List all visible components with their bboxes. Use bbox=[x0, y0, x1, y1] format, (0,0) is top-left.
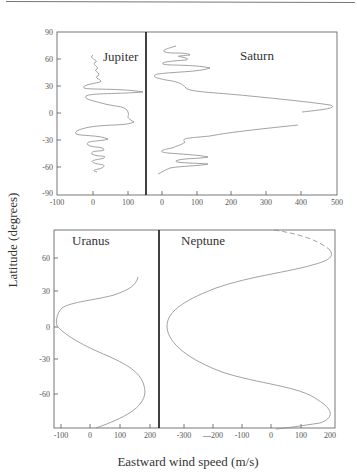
x-tick-label: 300 bbox=[260, 198, 272, 207]
x-tick-label: 100 bbox=[114, 431, 126, 440]
y-tick-label: -90 bbox=[42, 189, 53, 198]
y-tick-label: -60 bbox=[39, 390, 50, 399]
top-panel-frame bbox=[57, 32, 337, 195]
x-tick-label: 100 bbox=[122, 198, 134, 207]
x-tick-label: 500 bbox=[331, 198, 343, 207]
x-tick-label: 0 bbox=[88, 431, 92, 440]
y-tick-label: 30 bbox=[42, 287, 50, 296]
x-tick-label: -100 bbox=[54, 431, 69, 440]
neptune-x-axis: -300 —200 -100 0 100 200 bbox=[177, 424, 336, 440]
bottom-panel-frame bbox=[54, 230, 335, 428]
y-tick-label: 90 bbox=[45, 28, 53, 37]
x-tick-label: 200 bbox=[324, 431, 336, 440]
page-top-rule bbox=[6, 2, 355, 3]
y-axis-title: Latitude (degrees) bbox=[5, 193, 20, 288]
saturn-wind-curve bbox=[154, 46, 332, 174]
x-tick-label: 200 bbox=[144, 431, 156, 440]
x-tick-label: 100 bbox=[295, 431, 307, 440]
neptune-label: Neptune bbox=[181, 233, 225, 248]
neptune-wind-curve-dashed bbox=[274, 230, 330, 250]
x-tick-label: -100 bbox=[235, 431, 250, 440]
y-tick-label: 30 bbox=[45, 82, 53, 91]
bottom-y-axis: 60 30 0 -30 -60 bbox=[39, 254, 58, 399]
bottom-panel: 60 30 0 -30 -60 -100 0 100 200 -300 —200 bbox=[39, 230, 336, 440]
jupiter-label: Jupiter bbox=[103, 49, 139, 64]
uranus-x-axis: -100 0 100 200 bbox=[54, 424, 156, 440]
x-tick-label: —200 bbox=[202, 431, 223, 440]
y-tick-label: 60 bbox=[42, 254, 50, 263]
x-tick-label: -300 bbox=[177, 431, 192, 440]
x-tick-label: 0 bbox=[160, 198, 164, 207]
uranus-label: Uranus bbox=[72, 233, 110, 248]
top-panel: 90 60 30 0 -30 -60 -90 -100 0 100 0 100 … bbox=[42, 28, 343, 207]
y-tick-label: 60 bbox=[45, 55, 53, 64]
y-tick-label: -30 bbox=[39, 355, 50, 364]
neptune-wind-curve bbox=[167, 250, 332, 429]
saturn-label: Saturn bbox=[240, 48, 274, 63]
jupiter-wind-curve bbox=[76, 55, 143, 172]
x-tick-label: 100 bbox=[191, 198, 203, 207]
y-tick-label: -30 bbox=[42, 136, 53, 145]
x-tick-label: 200 bbox=[225, 198, 237, 207]
x-tick-label: 0 bbox=[269, 431, 273, 440]
planetary-wind-profile-figure: 90 60 30 0 -30 -60 -90 -100 0 100 0 100 … bbox=[0, 0, 357, 472]
y-tick-label: 0 bbox=[46, 323, 50, 332]
y-tick-label: -60 bbox=[42, 163, 53, 172]
x-tick-label: 0 bbox=[91, 198, 95, 207]
x-axis-title: Eastward wind speed (m/s) bbox=[117, 454, 258, 469]
top-y-axis: 90 60 30 0 -30 -60 -90 bbox=[42, 28, 61, 198]
saturn-x-axis: 0 100 200 300 400 500 bbox=[160, 191, 343, 207]
x-tick-label: -100 bbox=[50, 198, 65, 207]
uranus-wind-curve bbox=[57, 277, 145, 428]
x-tick-label: 400 bbox=[295, 198, 307, 207]
jupiter-x-axis: -100 0 100 bbox=[50, 191, 134, 207]
y-tick-label: 0 bbox=[49, 109, 53, 118]
